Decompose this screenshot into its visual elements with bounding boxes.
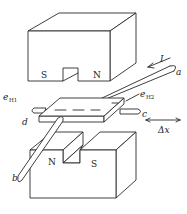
top-magnet-north-label: N <box>93 70 101 80</box>
terminal-a-label: a <box>176 67 181 77</box>
terminal-b-label: b <box>12 173 18 183</box>
terminal-d-label: d <box>22 117 28 127</box>
svg-text:e: e <box>3 92 8 102</box>
top-magnet-south-label: S <box>41 70 47 80</box>
terminal-c-label: c <box>142 109 147 119</box>
lead-c <box>120 109 141 114</box>
svg-text:H2: H2 <box>146 94 154 100</box>
hall-plate <box>39 98 124 122</box>
current-label: I <box>159 54 164 64</box>
displacement-arrow <box>146 118 180 122</box>
displacement-label: Δx <box>157 125 170 135</box>
bottom-magnet-south-label: S <box>91 159 97 169</box>
eh1-label: e H1 <box>3 92 17 103</box>
eh2-label: e H2 <box>140 89 154 100</box>
hall-sensor-diagram: S N I a e H1 e H2 d c <box>0 0 187 214</box>
svg-text:H1: H1 <box>9 97 17 103</box>
bottom-magnet-north-label: N <box>48 157 56 167</box>
top-magnet: S N <box>28 13 136 81</box>
svg-text:e: e <box>140 89 145 99</box>
